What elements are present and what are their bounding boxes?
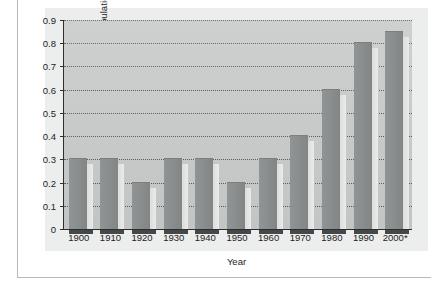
bar-shadow <box>340 95 346 229</box>
y-tick-label: 0.3 <box>32 154 56 165</box>
bar-body <box>132 182 150 229</box>
page-frame: Percentage of the U.S. Population 00.10.… <box>0 0 445 295</box>
bar <box>132 183 150 229</box>
bar <box>100 159 118 229</box>
x-axis-baseline <box>64 229 412 230</box>
bar-shadow <box>245 188 251 229</box>
bar-body <box>69 158 87 229</box>
chart-figure: Percentage of the U.S. Population 00.10.… <box>45 8 428 251</box>
bar-body <box>322 89 340 229</box>
x-axis-title: Year <box>45 256 428 267</box>
y-tick-label: 0.4 <box>32 131 56 142</box>
x-tick-label: 1990 <box>348 232 380 243</box>
x-tick-label: 2000* <box>379 232 411 243</box>
bar <box>227 183 245 229</box>
y-tick-label: 0.7 <box>32 61 56 72</box>
y-tick-label: 0.9 <box>32 15 56 26</box>
bar <box>385 32 403 229</box>
bar-body <box>164 158 182 229</box>
y-tick-label: 0 <box>32 224 56 235</box>
bar-body <box>259 158 277 229</box>
bar-body <box>385 31 403 229</box>
x-tick-label: 1930 <box>158 232 190 243</box>
y-tick-mark: 0.1 <box>60 206 64 207</box>
y-tick-mark: 0.3 <box>60 159 64 160</box>
x-tick-label: 1970 <box>284 232 316 243</box>
y-tick-mark: 0.9 <box>60 20 64 21</box>
bar <box>259 159 277 229</box>
x-tick-label: 1950 <box>221 232 253 243</box>
bar-body <box>195 158 213 229</box>
y-tick-mark: 0.7 <box>60 66 64 67</box>
gridline <box>64 20 412 21</box>
frame-left-rule <box>17 0 18 278</box>
x-tick-label: 1940 <box>190 232 222 243</box>
plot-inner: 00.10.20.30.40.50.60.70.80.9 <box>64 20 412 229</box>
bar <box>195 159 213 229</box>
bar-body <box>354 42 372 229</box>
y-tick-mark: 0.8 <box>60 43 64 44</box>
bar-shadow <box>372 48 378 229</box>
plot-area: 00.10.20.30.40.50.60.70.80.9 <box>63 20 412 229</box>
bar-shadow <box>277 164 283 229</box>
bar-shadow <box>118 164 124 229</box>
bar <box>164 159 182 229</box>
y-tick-mark: 0.4 <box>60 136 64 137</box>
bar-shadow <box>87 164 93 229</box>
x-tick-label: 1960 <box>253 232 285 243</box>
x-tick-label: 1980 <box>316 232 348 243</box>
y-tick-mark: 0.5 <box>60 113 64 114</box>
bar <box>354 43 372 229</box>
bar <box>290 136 308 229</box>
y-tick-mark: 0.6 <box>60 90 64 91</box>
bar-body <box>290 135 308 229</box>
bar <box>69 159 87 229</box>
y-tick-mark: 0.2 <box>60 183 64 184</box>
y-tick-label: 0.2 <box>32 178 56 189</box>
frame-bottom-rule <box>17 277 431 278</box>
y-tick-label: 0.6 <box>32 85 56 96</box>
bar-shadow <box>403 37 409 229</box>
y-tick-label: 0.1 <box>32 201 56 212</box>
bar-body <box>100 158 118 229</box>
bar-shadow <box>213 164 219 229</box>
bar-shadow <box>150 188 156 229</box>
x-tick-label: 1910 <box>95 232 127 243</box>
bar-body <box>227 182 245 229</box>
bar-shadow <box>308 141 314 229</box>
y-tick-label: 0.5 <box>32 108 56 119</box>
x-tick-label: 1900 <box>63 232 95 243</box>
x-tick-label: 1920 <box>126 232 158 243</box>
bar <box>322 90 340 229</box>
y-tick-label: 0.8 <box>32 38 56 49</box>
bar-shadow <box>182 164 188 229</box>
